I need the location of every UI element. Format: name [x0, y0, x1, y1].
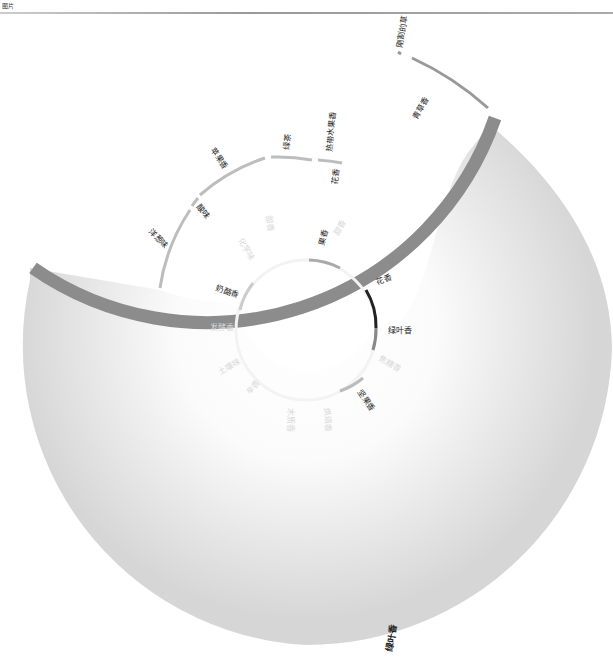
- label-woody: 木质香: [286, 408, 296, 432]
- label-onion: 洋葱味: [147, 226, 171, 250]
- sunburst-chart: 青草香 刚割的草 热带水果香 花香 绿茶 苹果香 酸味 洋葱味 奶酪香 果香 花…: [0, 0, 613, 665]
- label-green-tea: 绿茶: [281, 133, 292, 150]
- far-arc-cut-grass[interactable]: [398, 52, 401, 54]
- outer-arc-apple[interactable]: [200, 158, 265, 195]
- label-green-leaf-inner: 绿叶香: [388, 325, 412, 335]
- label-apple: 苹果香: [208, 145, 230, 170]
- label-grass: 青草香: [410, 95, 431, 121]
- label-roasted: 烘焙香: [322, 407, 334, 432]
- outer-ring: [160, 157, 342, 288]
- label-extra-faint: 甜香: [264, 215, 277, 232]
- expanded-segment[interactable]: [23, 125, 612, 645]
- label-floral-outer: 花香: [329, 168, 342, 185]
- outer-arc-tropical[interactable]: [318, 160, 342, 163]
- label-sweet: 甜香: [331, 218, 348, 237]
- label-cut-grass: 刚割的草: [394, 15, 409, 48]
- outer-arc-green-tea[interactable]: [271, 157, 312, 160]
- label-sour: 酸味: [194, 202, 212, 221]
- inner-arc-floral[interactable]: [366, 290, 376, 328]
- label-tropical: 热带水果香: [324, 111, 337, 152]
- label-chemical: 化学味: [236, 236, 257, 262]
- label-fermented: 发酵香: [210, 322, 234, 332]
- inner-arc-cheese[interactable]: [240, 283, 253, 310]
- label-fruity: 果香: [316, 228, 330, 246]
- label-cheese: 奶酪香: [214, 282, 240, 300]
